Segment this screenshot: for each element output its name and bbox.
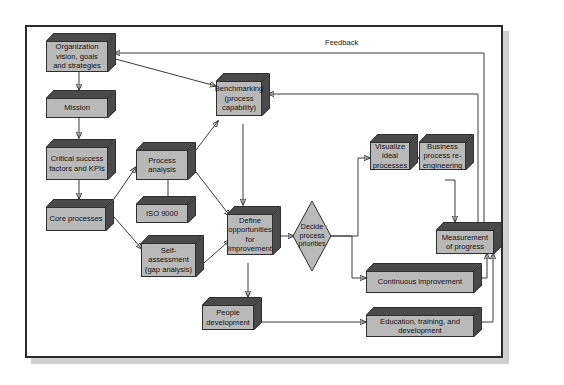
node-label: Self-assessment (gap analysis)	[141, 243, 196, 277]
box-side-face	[254, 297, 262, 330]
box-top-face	[436, 222, 502, 230]
node-label: Process analysis	[136, 150, 188, 180]
edge-core-process-analysis	[114, 167, 136, 199]
box-side-face	[410, 134, 418, 170]
node-label: Critical success factors and KPIs	[46, 147, 108, 180]
box-side-face	[273, 206, 281, 255]
node-continuous-improvement[interactable]: Continuous improvement	[366, 263, 482, 293]
box-top-face	[136, 142, 196, 150]
node-iso-9000[interactable]: ISO 9000	[136, 196, 196, 223]
node-define-opportunities[interactable]: Define opportunities for improvement	[227, 206, 281, 255]
node-label: Organization vision, goals and strategie…	[46, 41, 108, 72]
box-top-face	[46, 33, 116, 41]
box-side-face	[106, 199, 114, 231]
node-label: Mission	[46, 98, 108, 118]
edge-process-analysis-define	[196, 172, 230, 216]
node-label: Measurement of progress	[436, 230, 494, 254]
node-benchmarking[interactable]: Benchmarking (process capability)	[216, 73, 270, 116]
node-people-development[interactable]: People development	[202, 297, 262, 330]
diagram-canvas: Feedback Organization vision, goals and …	[0, 0, 564, 385]
node-label: Business process re-engineering	[419, 142, 466, 170]
node-label: Benchmarking (process capability)	[216, 81, 262, 116]
box-side-face	[466, 134, 474, 170]
node-label: Visualize ideal processes	[370, 142, 410, 170]
box-top-face	[46, 199, 114, 207]
edge-decide-continuous	[330, 236, 366, 278]
box-top-face	[202, 297, 262, 305]
edge-process-analysis-benchmarking	[196, 121, 218, 150]
node-label: Core processes	[46, 207, 106, 231]
node-process-analysis[interactable]: Process analysis	[136, 142, 196, 180]
node-core-processes[interactable]: Core processes	[46, 199, 114, 231]
box-top-face	[141, 235, 204, 243]
node-business-process-reengineering[interactable]: Business process re-engineering	[419, 134, 474, 170]
node-label: Define opportunities for improvement	[227, 214, 273, 255]
node-label: ISO 9000	[136, 204, 188, 223]
box-side-face	[494, 222, 502, 254]
node-measurement-of-progress[interactable]: Measurement of progress	[436, 222, 502, 254]
box-side-face	[108, 139, 116, 180]
box-top-face	[46, 139, 116, 147]
box-top-face	[366, 307, 482, 315]
box-top-face	[366, 263, 482, 271]
node-visualize-ideal-processes[interactable]: Visualize ideal processes	[370, 134, 418, 170]
node-label: Decide process priorities	[292, 200, 332, 272]
node-critical-success-factors[interactable]: Critical success factors and KPIs	[46, 139, 116, 180]
node-label: Education, training, and development	[366, 315, 474, 337]
edge-org-benchmarking	[108, 57, 216, 86]
node-label: Continuous improvement	[366, 271, 474, 293]
node-mission[interactable]: Mission	[46, 90, 116, 118]
box-top-face	[46, 90, 116, 98]
node-self-assessment[interactable]: Self-assessment (gap analysis)	[141, 235, 204, 277]
node-decide-process-priorities[interactable]: Decide process priorities	[292, 200, 332, 272]
box-side-face	[196, 235, 204, 277]
node-label: People development	[202, 305, 254, 330]
edge-decide-visualize	[330, 158, 370, 236]
feedback-label: Feedback	[325, 38, 358, 47]
node-organization[interactable]: Organization vision, goals and strategie…	[46, 33, 116, 72]
box-top-face	[136, 196, 196, 204]
node-education-training-development[interactable]: Education, training, and development	[366, 307, 482, 337]
box-side-face	[108, 33, 116, 72]
box-side-face	[188, 142, 196, 180]
edge-bpr-measurement	[445, 180, 455, 222]
